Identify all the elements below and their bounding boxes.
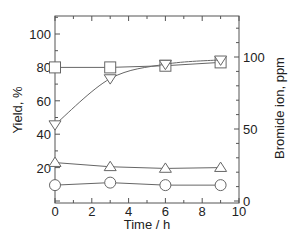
square-open-marker [50,62,61,73]
triangle-down-open-marker [104,75,116,84]
y-axis-tick-labels: 20406080100 [29,27,51,176]
y-tick-label: 100 [29,27,51,42]
y-tick-label: 60 [37,94,51,109]
series-square [50,57,227,73]
y2-axis-title: Bromide ion, ppm [272,57,287,159]
triangle-up-open-marker [215,162,227,171]
y-axis-title: Yield, % [10,86,25,134]
x-axis-title: Time / h [124,217,170,232]
triangle-up-open-marker [104,161,116,170]
circle-open-marker [105,177,116,188]
series-triangle-up [49,157,227,172]
y2-tick-label: 50 [243,122,257,137]
triangle-up-open-marker [159,163,171,172]
circle-open-marker [160,180,171,191]
data-series [49,56,227,191]
y2-tick-label: 100 [243,50,265,65]
x-tick-label: 0 [51,204,58,219]
square-open-marker [105,62,116,73]
x-axis-ticks [55,16,239,203]
y-tick-label: 20 [37,161,51,176]
x-tick-label: 2 [88,204,95,219]
y-tick-label: 80 [37,60,51,75]
y2-axis-ticks [234,28,239,201]
y2-axis-tick-labels: 050100 [243,50,265,209]
chart: 0246810 20406080100 050100 Time / h Yiel… [0,0,295,241]
circle-open-marker [215,180,226,191]
y2-tick-label: 0 [243,194,250,209]
plot-frame [55,16,239,203]
y-tick-label: 40 [37,127,51,142]
circle-open-marker [50,180,61,191]
y-axis-ticks [55,17,60,201]
series-circle [50,177,227,191]
x-tick-label: 8 [199,204,206,219]
